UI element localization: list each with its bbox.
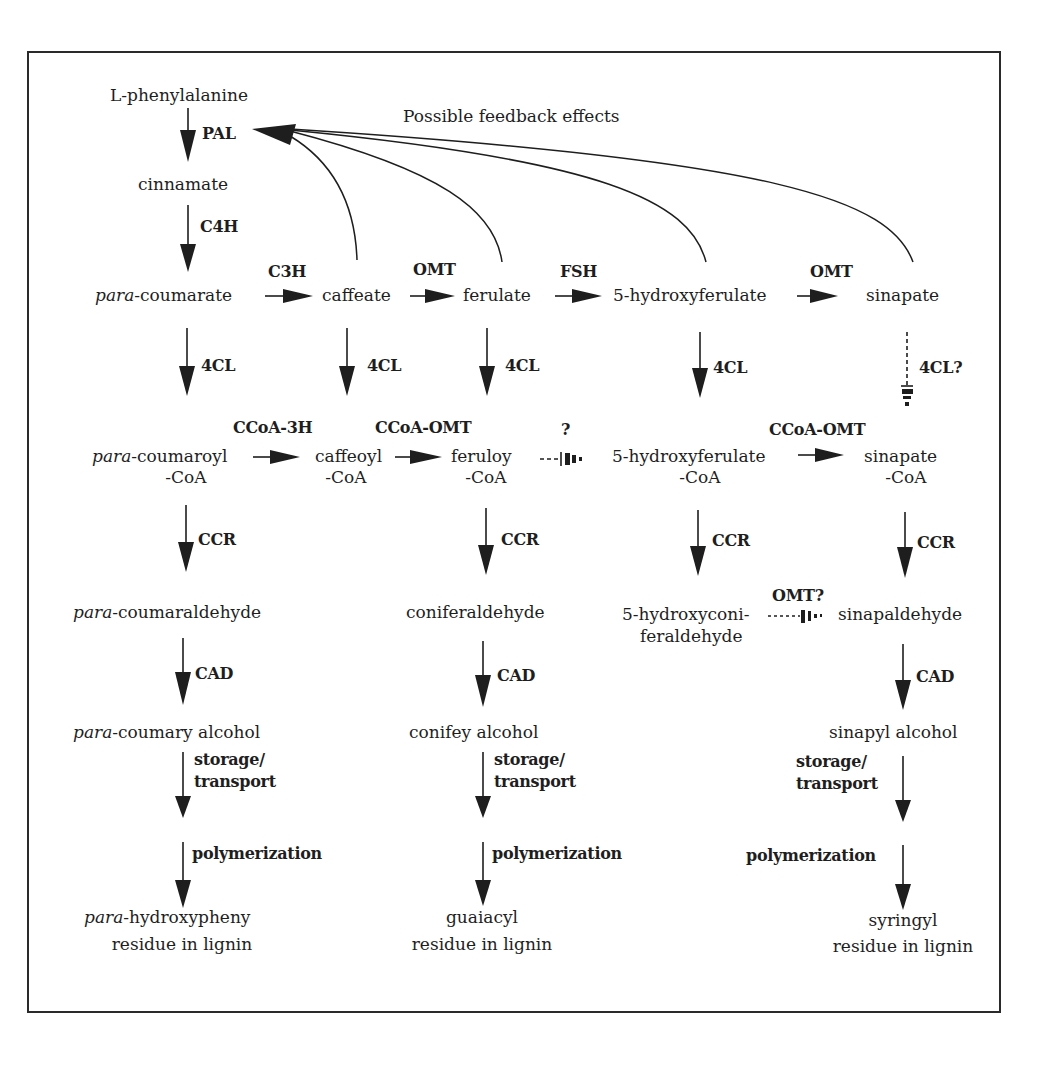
feedback-note: Possible feedback effects <box>403 106 619 126</box>
enzyme-omt-q: OMT? <box>772 586 824 605</box>
enzyme-omt-acid: OMT <box>413 260 456 279</box>
compound-sinapyl-alcohol: sinapyl alcohol <box>829 722 958 742</box>
enzyme-pal: PAL <box>202 124 236 143</box>
compound-p-coumaroyl-coa: para-coumaroyl <box>92 446 227 466</box>
residue-s: syringyl <box>869 910 938 930</box>
compound-feruloyl-coa: feruloy <box>451 446 512 466</box>
compound-sinapoyl-coa-line2: -CoA <box>885 467 926 487</box>
compound-feruloyl-coa-line2: -CoA <box>465 467 506 487</box>
enzyme-c4h: C4H <box>200 217 238 236</box>
compound-cinnamate: cinnamate <box>138 174 228 194</box>
compound-sinapate: sinapate <box>866 285 939 305</box>
enzyme-ccr-4: CCR <box>712 531 750 550</box>
compound-5-hydroxyferulate: 5-hydroxyferulate <box>613 285 766 305</box>
compound-sinapoyl-coa: sinapate <box>864 446 937 466</box>
step-storage-2: storage/ <box>494 750 565 769</box>
compound-sinapaldehyde: sinapaldehyde <box>838 604 962 624</box>
step-storage-1: storage/ <box>194 750 265 769</box>
enzyme-4cl-2: 4CL <box>367 356 401 375</box>
compound-5-hydroxyconiferaldehyde: 5-hydroxyconi- <box>622 604 749 624</box>
enzyme-c3h: C3H <box>268 262 306 281</box>
enzyme-ccoa-3h: CCoA-3H <box>233 418 312 437</box>
compound-p-coumaraldehyde: para-coumaraldehyde <box>73 602 261 622</box>
enzyme-4cl-5: 4CL? <box>919 358 962 377</box>
step-storage-3: storage/ <box>796 752 867 771</box>
enzyme-cad-3: CAD <box>497 666 535 685</box>
step-polymerization-3: polymerization <box>746 846 876 865</box>
enzyme-omt-acid-2: OMT <box>810 262 853 281</box>
compound-ferulate: ferulate <box>463 285 531 305</box>
compound-p-coumarate: para-coumarate <box>95 285 232 305</box>
enzyme-ccr-5: CCR <box>917 533 955 552</box>
enzyme-f5h: FSH <box>560 262 597 281</box>
enzyme-cad-5: CAD <box>916 667 954 686</box>
enzyme-4cl-3: 4CL <box>505 356 539 375</box>
compound-l-phenylalanine: L-phenylalanine <box>110 85 248 105</box>
enzyme-cad-1: CAD <box>195 664 233 683</box>
compound-coniferaldehyde: coniferaldehyde <box>406 602 545 622</box>
compound-coniferyl-alcohol: conifey alcohol <box>409 722 538 742</box>
residue-h-line2: residue in lignin <box>112 934 253 954</box>
residue-h: para-hydroxypheny <box>84 907 250 927</box>
enzyme-ccr-1: CCR <box>198 530 236 549</box>
compound-5-hydroxyconiferaldehyde-line2: feraldehyde <box>640 626 743 646</box>
step-transport-1: transport <box>194 772 276 791</box>
enzyme-4cl-4: 4CL <box>713 358 747 377</box>
residue-s-line2: residue in lignin <box>833 936 974 956</box>
enzyme-unknown: ? <box>561 420 570 439</box>
compound-p-coumaryl-alcohol: para-coumary alcohol <box>73 722 260 742</box>
compound-5-hydroxyferulate-coa: 5-hydroxyferulate <box>612 446 765 466</box>
step-transport-2: transport <box>494 772 576 791</box>
enzyme-ccr-3: CCR <box>501 530 539 549</box>
compound-caffeoyl-coa-line2: -CoA <box>325 467 366 487</box>
compound-caffeoyl-coa: caffeoyl <box>315 446 382 466</box>
feedback-arrows-icon <box>252 124 913 262</box>
compound-p-coumaroyl-coa-line2: -CoA <box>165 467 206 487</box>
step-transport-3: transport <box>796 774 878 793</box>
compound-caffeate: caffeate <box>322 285 391 305</box>
arrow-right-icon <box>253 289 844 464</box>
step-polymerization-2: polymerization <box>492 844 622 863</box>
compound-5-hydroxyferulate-coa-line2: -CoA <box>679 467 720 487</box>
residue-g: guaiacyl <box>446 907 518 927</box>
enzyme-ccoa-omt-1: CCoA-OMT <box>375 418 471 437</box>
enzyme-4cl-1: 4CL <box>201 356 235 375</box>
residue-g-line2: residue in lignin <box>412 934 553 954</box>
step-polymerization-1: polymerization <box>192 844 322 863</box>
enzyme-ccoa-omt-2: CCoA-OMT <box>769 420 865 439</box>
